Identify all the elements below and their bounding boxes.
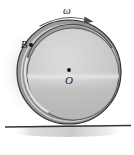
angular-velocity-label: ω — [63, 4, 71, 16]
angular-velocity-arrowhead — [84, 17, 94, 24]
center-point-marker — [67, 68, 71, 72]
point-b-marker — [29, 43, 33, 47]
ground-line — [5, 126, 131, 128]
point-b-label: B — [21, 38, 28, 50]
wheel-diagram-canvas: O B ω — [0, 0, 134, 155]
physics-figure-rolling-wheel: O B ω — [0, 0, 134, 155]
center-label-o: O — [65, 74, 73, 86]
disk-mid-highlight — [20, 72, 130, 81]
